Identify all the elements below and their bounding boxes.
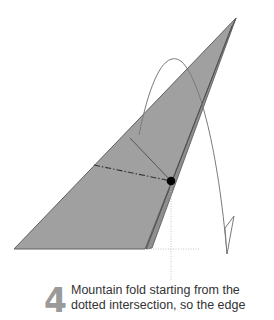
paper-flap [14, 18, 236, 249]
intersection-dot [167, 177, 176, 186]
origami-diagram [0, 0, 274, 320]
instruction-line-2: dotted intersection, so the edge [71, 298, 245, 313]
instruction-line-1: Mountain fold starting from the [71, 283, 245, 298]
step-caption: 4 Mountain fold starting from the dotted… [44, 283, 274, 316]
step-number: 4 [44, 286, 67, 316]
arrow-head-icon [225, 216, 234, 254]
step-instruction: Mountain fold starting from the dotted i… [71, 283, 245, 312]
